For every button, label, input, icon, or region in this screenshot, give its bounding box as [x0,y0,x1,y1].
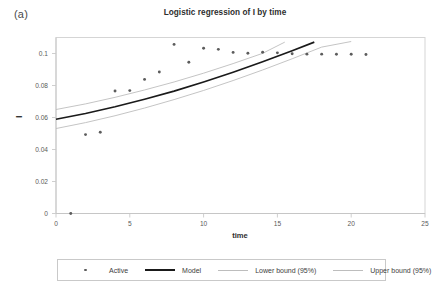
legend-label: Upper bound (95%) [370,267,431,274]
x-tick-label: 10 [192,220,216,227]
data-point [173,43,176,46]
data-point [350,53,353,56]
legend-row: ActiveModelLower bound (95%)Upper bound … [58,260,385,280]
chart-legend: ActiveModelLower bound (95%)Upper bound … [57,259,386,281]
legend-entry: Lower bound (95%) [218,265,316,275]
data-point [217,48,220,51]
chart-figure: (a) Logistic regression of I by time I t… [0,0,440,295]
data-point [291,52,294,55]
data-point [365,53,368,56]
legend-line-icon [145,265,175,275]
y-tick-label: 0.1 [18,50,48,57]
data-point [99,131,102,134]
x-tick-label: 25 [413,220,437,227]
y-axis-ticks [52,38,56,214]
y-tick-label: 0.08 [18,82,48,89]
data-point [232,51,235,54]
data-point [84,133,87,136]
legend-line [145,269,175,271]
data-point [128,89,131,92]
data-point [320,53,323,56]
y-tick-label: 0.02 [18,178,48,185]
legend-marker-icon [72,265,102,275]
x-tick-label: 15 [265,220,289,227]
legend-entry: Upper bound (95%) [333,265,431,275]
legend-label: Model [182,267,201,274]
legend-line-icon [333,265,363,275]
legend-label: Active [109,267,128,274]
x-tick-label: 0 [44,220,68,227]
data-point [261,51,264,54]
legend-line [333,270,363,271]
x-tick-label: 20 [339,220,363,227]
plot-canvas [0,0,440,295]
plot-frame [56,38,425,214]
y-tick-label: 0.06 [18,114,48,121]
data-point [69,212,72,215]
legend-line [218,270,248,271]
data-point [246,52,249,55]
data-point [114,89,117,92]
data-point [187,61,190,64]
x-axis-title: time [55,231,425,240]
data-point [276,51,279,54]
legend-dot [84,269,87,272]
legend-entry: Active [72,265,128,275]
legend-entry: Model [145,265,201,275]
legend-label: Lower bound (95%) [255,267,316,274]
x-tick-label: 5 [118,220,142,227]
legend-line-icon [218,265,248,275]
y-tick-label: 0 [18,210,48,217]
data-point [143,78,146,81]
data-point [158,71,161,74]
data-point [305,53,308,56]
y-tick-label: 0.04 [18,146,48,153]
data-point [335,53,338,56]
x-axis-ticks [56,214,425,218]
data-point [202,47,205,50]
